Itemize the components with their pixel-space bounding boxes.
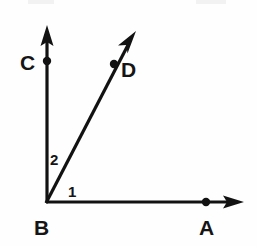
- ray-bd-line: [46, 45, 128, 203]
- point-dot-d: [110, 60, 118, 68]
- vertex-label-c: C: [20, 51, 35, 74]
- geometry-diagram: C D B A 2 1: [0, 0, 257, 246]
- point-dot-c: [43, 57, 51, 65]
- angle-label-2: 2: [50, 151, 58, 168]
- vertex-label-d: D: [121, 58, 136, 81]
- vertex-label-b: B: [34, 216, 49, 239]
- vertex-label-a: A: [199, 216, 214, 239]
- scan-artifact-left: [28, 0, 54, 4]
- diagram-canvas: C D B A 2 1: [0, 0, 257, 246]
- scan-artifact-right: [196, 0, 226, 4]
- point-dot-a: [202, 198, 210, 206]
- angle-label-1: 1: [68, 183, 76, 200]
